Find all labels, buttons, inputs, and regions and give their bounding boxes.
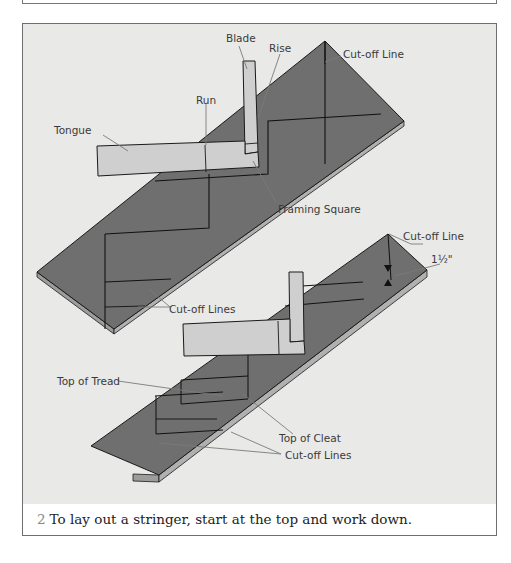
label-framing-square: Framing Square [278, 203, 361, 215]
label-cutoff-line-top: Cut-off Line [343, 48, 404, 60]
figure-caption: 2To lay out a stringer, start at the top… [37, 511, 412, 527]
label-cutoff-lines-top: Cut-off Lines [169, 303, 235, 315]
stringer-illustration: Blade Rise Cut-off Line Run Tongue Frami… [23, 24, 496, 504]
label-top-of-cleat: Top of Cleat [278, 432, 341, 444]
label-cutoff-lines-bottom: Cut-off Lines [285, 449, 351, 461]
previous-figure-frame [22, 0, 497, 4]
label-top-of-tread: Top of Tread [56, 375, 120, 387]
label-tongue: Tongue [53, 124, 92, 136]
figure-frame: Blade Rise Cut-off Line Run Tongue Frami… [22, 23, 497, 536]
label-rise: Rise [269, 42, 291, 54]
label-cutoff-line-bottom: Cut-off Line [403, 230, 464, 242]
label-dimension: 1½" [431, 253, 453, 265]
label-blade: Blade [226, 32, 256, 44]
caption-text: To lay out a stringer, start at the top … [50, 511, 412, 527]
figure-number: 2 [37, 511, 46, 527]
label-run: Run [196, 94, 216, 106]
